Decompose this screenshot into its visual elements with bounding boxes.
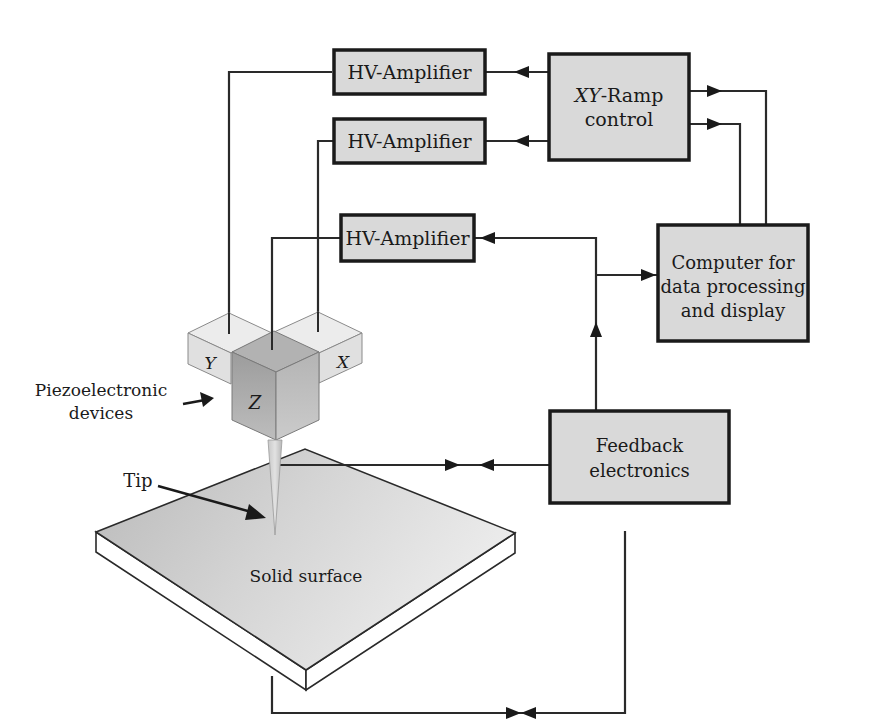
feedback-label-line1: Feedback [596,435,685,456]
arrow-right-icon [445,459,460,471]
feedback-electronics: Feedback electronics [550,411,729,503]
arrow-pointer-icon [200,392,214,407]
computer-block: Computer for data processing and display [658,225,808,341]
xy-ramp-label-line1: XY-Ramp [573,84,664,106]
piezo-label-line1: Piezoelectronic [35,380,167,400]
computer-label-line3: and display [681,300,786,321]
hv-amplifier-2-label: HV-Amplifier [347,130,472,152]
hv-amplifier-1: HV-Amplifier [334,50,485,94]
computer-label-line1: Computer for [671,252,795,273]
surface-label: Solid surface [250,566,363,586]
hv-amplifier-3: HV-Amplifier [341,215,474,261]
piezo-annotation: Piezoelectronic devices [35,380,214,423]
arrow-left-icon [480,232,495,244]
arrow-right-icon [707,85,722,97]
y-axis-label: Y [204,353,217,373]
hv-amplifier-2: HV-Amplifier [334,119,485,163]
x-axis-label: X [335,352,350,372]
feedback-label-line2: electronics [589,460,690,481]
arrow-up-icon [590,322,602,337]
arrow-left-icon [479,459,494,471]
tip-label: Tip [123,470,152,491]
hv-amplifier-1-label: HV-Amplifier [347,61,472,83]
computer-label-line2: data processing [661,276,806,297]
piezo-label-line2: devices [69,403,133,423]
arrow-right-icon [641,269,656,281]
xy-ramp-italic: XY [573,84,604,106]
xy-ramp-label-line2: control [585,108,654,130]
xy-ramp-control: XY-Ramp control [549,54,689,160]
hv-amplifier-3-label: HV-Amplifier [345,227,470,249]
arrow-right-icon [506,707,521,719]
arrow-left-icon [514,135,529,147]
arrow-left-icon [514,66,529,78]
stm-diagram: HV-Amplifier HV-Amplifier HV-Amplifier X… [0,0,873,720]
z-axis-label: Z [248,392,262,413]
arrow-right-icon [707,118,722,130]
piezo-z-cube: Z [232,331,319,440]
xy-ramp-rest: -Ramp [601,84,664,106]
piezo-cubes: Y X Z [188,312,362,440]
arrow-left-icon [521,707,536,719]
